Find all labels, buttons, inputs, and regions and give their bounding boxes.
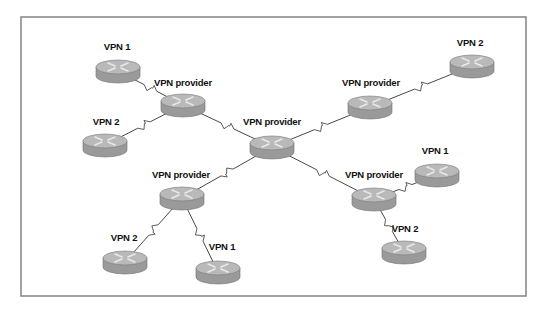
lightning-bolt-icon (221, 123, 234, 129)
lightning-bolt-icon (315, 123, 328, 132)
router-node-vpn2_l: VPN 2 (83, 116, 127, 157)
node-label: VPN provider (342, 77, 400, 88)
router-node-vpn1_bm: VPN 1 (196, 241, 240, 284)
lightning-bolt-icon (221, 168, 233, 177)
node-label: VPN provider (243, 116, 301, 127)
lightning-bolt-icon (138, 121, 150, 130)
node-label: VPN 2 (392, 223, 418, 234)
router-top (83, 134, 127, 148)
router-node-vpn2_br: VPN 2 (382, 223, 426, 264)
lightning-bolt-icon (415, 82, 428, 91)
router-top (196, 261, 240, 275)
node-label: VPN provider (152, 169, 210, 180)
node-label: VPN 2 (93, 116, 119, 127)
router-node-prov_tl: VPN provider (154, 77, 212, 117)
router-node-prov_br: VPN provider (345, 169, 403, 211)
node-label: VPN 2 (457, 37, 483, 48)
router-top (96, 60, 140, 74)
node-label: VPN provider (345, 169, 403, 180)
node-label: VPN 1 (104, 41, 131, 52)
node-label: VPN 2 (111, 232, 137, 243)
router-top (160, 187, 204, 201)
router-node-vpn2_tr: VPN 2 (450, 37, 494, 78)
router-top (250, 136, 294, 150)
router-top (103, 251, 147, 265)
lightning-bolt-icon (196, 229, 205, 242)
lightning-bolt-icon (149, 225, 158, 235)
router-node-vpn2_bl: VPN 2 (103, 232, 147, 274)
router-top (450, 55, 494, 69)
router-top (352, 188, 396, 202)
lightning-bolt-icon (317, 170, 329, 176)
router-top (161, 94, 205, 108)
router-top (348, 96, 392, 110)
router-top (382, 241, 426, 255)
node-label: VPN 1 (209, 241, 236, 252)
lightning-bolt-icon (399, 183, 412, 192)
router-node-prov_bl: VPN provider (152, 169, 210, 210)
nodes-layer: VPN 1VPN providerVPN 2VPN providerVPN pr… (83, 37, 494, 284)
node-label: VPN provider (154, 77, 212, 88)
node-label: VPN 1 (422, 145, 449, 156)
router-top (415, 164, 459, 178)
router-node-vpn1_r: VPN 1 (415, 145, 459, 187)
vpn-network-diagram: VPN 1VPN providerVPN 2VPN providerVPN pr… (0, 0, 545, 312)
router-node-vpn1_tl: VPN 1 (96, 41, 140, 83)
